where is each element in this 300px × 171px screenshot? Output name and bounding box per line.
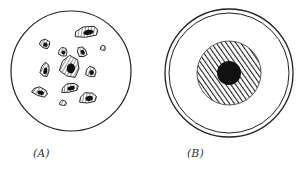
particle	[74, 25, 99, 39]
particle	[39, 38, 51, 50]
particle	[60, 81, 79, 94]
particle	[59, 54, 81, 78]
particle	[59, 47, 68, 56]
panel-label-b: (B)	[187, 147, 204, 160]
figure-canvas	[0, 0, 300, 171]
particle	[59, 100, 66, 105]
particle	[39, 62, 50, 77]
panel-b	[165, 9, 293, 137]
panel-label-a: (A)	[33, 147, 50, 160]
panel-a	[11, 11, 131, 131]
black-core-b	[217, 61, 241, 85]
particle	[86, 66, 97, 77]
particles-group	[31, 25, 105, 106]
particle	[100, 45, 105, 50]
particle	[75, 45, 88, 58]
particle	[31, 85, 49, 97]
particle	[78, 91, 97, 105]
